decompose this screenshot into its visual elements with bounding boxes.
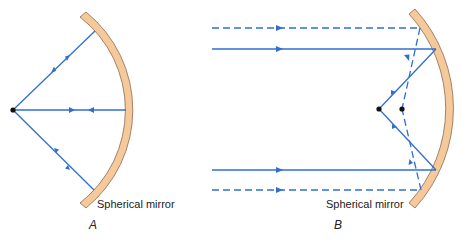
spherical-mirror-diagram: Spherical mirror A xyxy=(0,0,463,239)
arrow-icon xyxy=(69,107,75,113)
panel-b: Spherical mirror B xyxy=(212,9,453,232)
arrow-icon xyxy=(404,55,410,62)
arrow-icon xyxy=(276,167,283,173)
arrow-icon xyxy=(276,46,283,52)
arrow-icon xyxy=(409,159,414,165)
mirror-label-b: Spherical mirror xyxy=(326,198,404,210)
focus-point-marginal xyxy=(399,106,404,111)
reflected-dashed-bottom xyxy=(402,109,421,190)
arrowheads-a xyxy=(51,55,94,170)
arrow-icon xyxy=(65,55,70,61)
ray-lower xyxy=(13,110,94,190)
panel-a: Spherical mirror A xyxy=(10,12,175,232)
panel-label-a: A xyxy=(88,218,97,232)
focus-point-paraxial xyxy=(376,106,381,111)
mirror-label-a: Spherical mirror xyxy=(97,198,175,210)
arrow-icon xyxy=(51,67,56,74)
source-point-dot xyxy=(10,107,15,112)
spherical-mirror-b xyxy=(409,9,453,208)
panel-label-b: B xyxy=(334,218,342,232)
arrow-icon xyxy=(276,187,283,193)
reflected-solid-bottom xyxy=(379,109,436,170)
arrow-icon xyxy=(88,107,94,113)
arrowheads-b xyxy=(276,25,413,193)
arrow-icon xyxy=(276,25,283,31)
